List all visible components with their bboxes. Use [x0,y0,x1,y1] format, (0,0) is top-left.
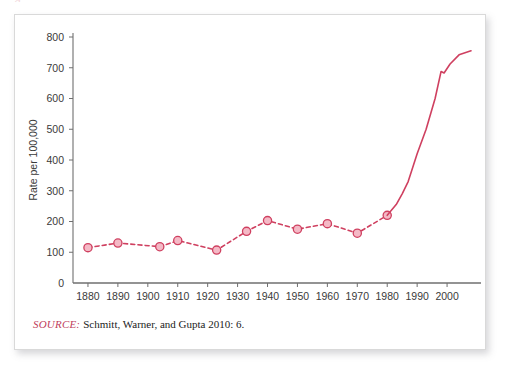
y-axis-title: Rate per 100,000 [27,119,39,200]
y-axis-tick-label: 300 [46,185,64,197]
source-text: Schmitt, Warner, and Gupta 2010: 6. [83,318,244,330]
y-axis-tick-label: 700 [46,62,64,74]
x-axis-tick-label: 1910 [166,290,190,302]
source-label: SOURCE: [33,318,80,330]
data-point-marker [353,229,361,237]
x-axis-tick-label: 2000 [435,290,459,302]
data-point-marker [263,216,271,224]
data-point-marker [293,225,301,233]
data-point-marker [156,243,164,251]
data-point-marker [114,239,122,247]
series-line [387,51,471,216]
page-bleed-glyph: g [14,0,21,2]
y-axis-tick-label: 400 [46,154,64,166]
series-line [88,215,387,250]
figure-card: 0100200300400500600700800188018901900191… [14,14,486,350]
y-axis-tick-label: 600 [46,92,64,104]
data-point-marker [84,244,92,252]
y-axis-tick-label: 0 [58,277,64,289]
source-note: SOURCE:Schmitt, Warner, and Gupta 2010: … [33,318,244,330]
data-point-marker [174,236,182,244]
x-axis-tick-label: 1940 [256,290,280,302]
x-axis-tick-label: 1970 [346,290,370,302]
x-axis-tick-label: 1960 [316,290,340,302]
x-axis-tick-label: 1900 [136,290,160,302]
x-axis-tick-label: 1980 [376,290,400,302]
x-axis-tick-label: 1990 [405,290,429,302]
y-axis-tick-label: 200 [46,215,64,227]
x-axis-tick-label: 1880 [76,290,100,302]
y-axis-tick-label: 100 [46,246,64,258]
line-chart: 0100200300400500600700800188018901900191… [15,15,487,315]
data-point-marker [323,220,331,228]
data-point-marker [213,246,221,254]
x-axis-tick-label: 1950 [286,290,310,302]
x-axis-tick-label: 1890 [106,290,130,302]
x-axis-tick-label: 1920 [196,290,220,302]
y-axis-tick-label: 800 [46,31,64,43]
data-point-marker [242,227,250,235]
y-axis-tick-label: 500 [46,123,64,135]
chart-plot-area: 0100200300400500600700800188018901900191… [15,15,487,315]
x-axis-tick-label: 1930 [226,290,250,302]
